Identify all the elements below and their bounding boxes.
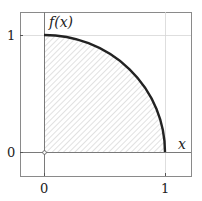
x-axis-label: x: [178, 136, 186, 152]
origin-marker: [43, 151, 47, 155]
y-tick-0: 0: [7, 145, 15, 160]
area-fill: [44, 35, 165, 152]
x-tick-0: 0: [40, 181, 48, 196]
quarter-circle-chart: 1 0 0 1 f(x) x: [0, 0, 202, 201]
y-axis-label: f(x): [48, 14, 73, 30]
x-tick-1: 1: [161, 181, 169, 196]
y-tick-1: 1: [7, 28, 15, 43]
